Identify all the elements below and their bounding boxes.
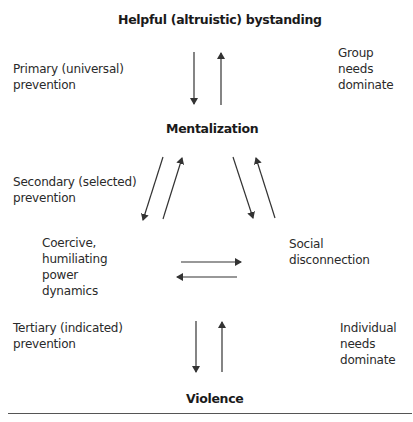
arrow-coercive-to-mentalization xyxy=(163,158,182,219)
bottom-divider xyxy=(8,413,412,414)
arrow-mentalization-to-coercive xyxy=(143,157,163,220)
arrow-mentalization-to-disconnection xyxy=(233,157,253,218)
arrows-layer xyxy=(0,0,413,422)
arrow-disconnection-to-mentalization xyxy=(256,158,275,218)
